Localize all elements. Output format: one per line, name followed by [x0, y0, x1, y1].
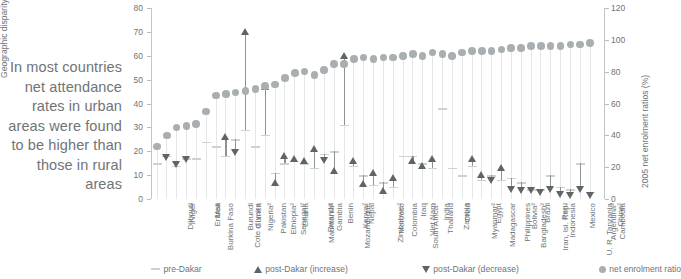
country-column[interactable]	[153, 8, 162, 199]
country-column[interactable]	[251, 8, 260, 199]
x-axis-label: Benin	[348, 203, 356, 223]
column-stem	[403, 56, 404, 199]
pre-dakar-marker	[261, 135, 270, 136]
column-stem	[284, 78, 285, 199]
country-column[interactable]	[271, 8, 280, 199]
country-column[interactable]	[212, 8, 221, 199]
country-column[interactable]	[310, 8, 319, 199]
country-column[interactable]	[202, 8, 211, 199]
x-axis-label: Mexico	[589, 203, 597, 228]
country-column[interactable]	[192, 8, 201, 199]
post-dakar-increase-marker	[300, 157, 308, 164]
net-enrolment-ratio-dot	[527, 42, 535, 50]
net-enrolment-ratio-dot	[458, 49, 466, 57]
country-column[interactable]	[399, 8, 408, 199]
post-dakar-decrease-marker	[576, 186, 584, 193]
country-column[interactable]	[330, 8, 339, 199]
country-column[interactable]	[477, 8, 486, 199]
country-column[interactable]	[349, 8, 358, 199]
country-column[interactable]	[527, 8, 536, 199]
country-column[interactable]	[566, 8, 575, 199]
column-stem	[521, 48, 522, 199]
country-column[interactable]	[359, 8, 368, 199]
net-enrolment-ratio-dot	[448, 52, 456, 60]
triangle-up-icon	[254, 266, 262, 273]
country-column[interactable]	[468, 8, 477, 199]
column-stem	[590, 43, 591, 199]
post-dakar-decrease-marker	[556, 191, 564, 198]
country-column[interactable]	[487, 8, 496, 199]
country-column[interactable]	[221, 8, 230, 199]
legend-item-pre[interactable]: pre-Dakar	[151, 264, 202, 274]
country-column[interactable]	[389, 8, 398, 199]
country-column[interactable]	[556, 8, 565, 199]
country-column[interactable]	[300, 8, 309, 199]
pre-dakar-marker	[448, 168, 457, 169]
net-enrolment-ratio-dot	[311, 71, 319, 79]
post-dakar-decrease-marker	[566, 192, 574, 199]
country-column[interactable]	[497, 8, 506, 199]
country-column[interactable]	[517, 8, 526, 199]
x-axis-label: India	[443, 203, 451, 220]
post-dakar-increase-marker	[428, 155, 436, 162]
country-column[interactable]	[369, 8, 378, 199]
post-dakar-increase-marker	[271, 179, 279, 186]
country-column[interactable]	[507, 8, 516, 199]
country-column[interactable]	[546, 8, 555, 199]
country-column[interactable]	[261, 8, 270, 199]
country-column[interactable]	[408, 8, 417, 199]
post-dakar-increase-marker	[468, 155, 476, 162]
country-column[interactable]	[448, 8, 457, 199]
net-enrolment-ratio-dot	[557, 42, 565, 50]
country-column[interactable]	[280, 8, 289, 199]
country-column[interactable]	[586, 8, 595, 199]
net-enrolment-ratio-dot	[380, 54, 388, 62]
column-stem	[462, 53, 463, 199]
country-column[interactable]	[379, 8, 388, 199]
net-enrolment-ratio-dot	[468, 47, 476, 55]
pre-dakar-marker	[212, 146, 221, 147]
x-axis-label: Madagascar	[509, 203, 517, 247]
country-column[interactable]	[231, 8, 240, 199]
country-column[interactable]	[418, 8, 427, 199]
x-axis-label: Egypt	[495, 203, 503, 223]
country-column[interactable]	[172, 8, 181, 199]
pre-dakar-marker	[202, 142, 211, 143]
triangle-down-icon	[422, 266, 430, 273]
y-tick-label-left: 80	[121, 4, 143, 13]
y-tick-label-right: 80	[611, 68, 635, 77]
legend-item-dn[interactable]: post-Dakar (decrease)	[422, 264, 519, 274]
country-column[interactable]	[320, 8, 329, 199]
post-dakar-decrease-marker	[487, 177, 495, 184]
country-column[interactable]	[162, 8, 171, 199]
post-dakar-increase-marker	[369, 169, 377, 176]
net-enrolment-ratio-dot	[330, 60, 338, 68]
country-column[interactable]	[428, 8, 437, 199]
country-column[interactable]	[241, 8, 250, 199]
change-connector	[245, 32, 246, 130]
net-enrolment-ratio-dot	[360, 54, 368, 62]
column-stem	[314, 75, 315, 199]
net-enrolment-ratio-dot	[370, 55, 378, 63]
country-column[interactable]	[576, 8, 585, 199]
country-column[interactable]	[536, 8, 545, 199]
pre-dakar-marker	[221, 156, 230, 157]
legend-item-ner[interactable]: net enrolment ratio	[599, 264, 681, 274]
legend-item-up[interactable]: post-Dakar (increase)	[254, 264, 348, 274]
pre-dakar-marker	[241, 130, 250, 131]
country-column[interactable]	[340, 8, 349, 199]
country-column[interactable]	[458, 8, 467, 199]
net-enrolment-ratio-dot	[261, 82, 269, 90]
country-column[interactable]	[290, 8, 299, 199]
y-tick-left	[147, 8, 151, 9]
net-enrolment-ratio-dot	[252, 85, 260, 93]
pre-dakar-marker	[389, 187, 398, 188]
country-column[interactable]	[182, 8, 191, 199]
net-enrolment-ratio-dot	[478, 47, 486, 55]
column-stem	[353, 59, 354, 199]
country-column[interactable]	[438, 8, 447, 199]
post-dakar-decrease-marker	[517, 187, 525, 194]
legend-label: net enrolment ratio	[609, 264, 681, 274]
y-tick-label-right: 40	[611, 131, 635, 140]
